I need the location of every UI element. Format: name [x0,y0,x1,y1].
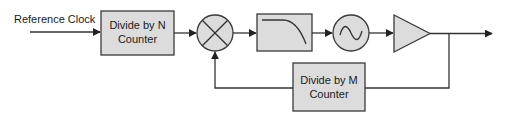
divide-n-label-line1: Divide by N [109,19,165,31]
amplifier-icon [394,15,430,52]
divide-n-label-line2: Counter [118,33,157,45]
divide-m-label-line1: Divide by M [300,74,357,86]
vco-sine-icon [333,15,369,51]
divide-by-m-counter-block: Divide by M Counter [293,63,365,111]
divide-m-label-line2: Counter [309,88,348,100]
reference-clock-label: Reference Clock [14,13,96,25]
feedback-to-mixer-arrow [215,52,293,88]
pll-diagram: Reference Clock Divide by N Counter Divi… [0,0,506,119]
mixer-icon [197,15,233,51]
divide-by-n-counter-block: Divide by N Counter [101,11,174,55]
low-pass-filter-icon [257,14,312,51]
